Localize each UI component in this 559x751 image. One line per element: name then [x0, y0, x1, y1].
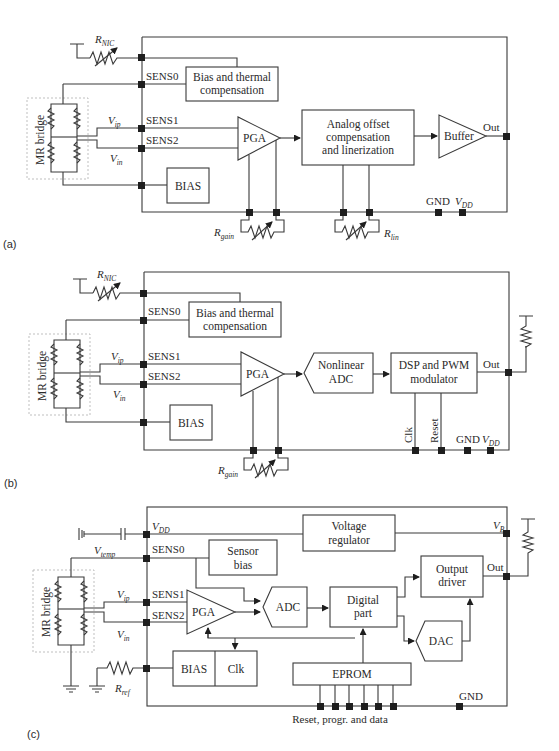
- pin-sens1: SENS1: [146, 114, 178, 126]
- analog-offset-label-3: and linerization: [322, 144, 394, 156]
- pin-sens2-b: SENS2: [148, 370, 180, 382]
- mr-bridge-label: MR bridge: [34, 115, 47, 165]
- rgain-label-b: Rgain: [217, 464, 238, 479]
- pin-sens0-c: SENS0: [152, 543, 185, 555]
- eprom-label: EPROM: [332, 668, 372, 680]
- pin-clk: Clk: [402, 427, 414, 443]
- dac-label: DAC: [429, 635, 454, 647]
- rnic-resistor-icon: [90, 52, 142, 64]
- panel-b: RNIC SENS0 Bias and thermal compensation…: [4, 268, 533, 489]
- output-driver-label: Output: [436, 563, 469, 576]
- bias-label: BIAS: [175, 180, 201, 192]
- prog-pins-label: Reset, progr. and data: [292, 713, 388, 725]
- vin-label: Vin: [110, 152, 123, 167]
- pga-label-b: PGA: [246, 368, 270, 380]
- caption-a: (a): [3, 238, 16, 250]
- vin-label-b: Vin: [113, 388, 126, 403]
- bias-thermal-label-b-2: compensation: [203, 320, 267, 333]
- rnic-supply: [70, 44, 90, 58]
- voltage-regulator-label: Voltage: [332, 520, 367, 533]
- pin-sens0-b: SENS0: [148, 305, 181, 317]
- pin-gnd: GND: [426, 195, 450, 207]
- buffer-label: Buffer: [444, 130, 474, 142]
- adc-label: ADC: [276, 601, 301, 613]
- pga-label-c: PGA: [192, 606, 216, 618]
- vtemp-label: Vtemp: [94, 544, 116, 559]
- mr-bridge-label-c: MR bridge: [40, 587, 53, 637]
- caption-b: (b): [4, 477, 17, 489]
- pin-vdd-c: VDD: [152, 520, 170, 535]
- sensor-bias-label: Sensor: [227, 545, 258, 557]
- panel-c: VDD Vtemp Voltage regulator VB SENS0 Sen…: [27, 507, 535, 740]
- nonlinear-adc-label: Nonlinear: [318, 359, 364, 371]
- pin-out: Out: [483, 121, 500, 133]
- sensor-block-diagrams: RNIC SENS0 Bias and thermal compensation…: [0, 0, 559, 751]
- mr-bridge-resistors-icon-c: [55, 558, 87, 692]
- bias-label-b: BIAS: [178, 417, 204, 429]
- pin-vb: VB: [493, 519, 505, 534]
- output-driver-label-2: driver: [438, 576, 466, 588]
- bias-thermal-label-b: Bias and thermal: [196, 307, 274, 319]
- rnic-label: RNIC: [94, 33, 115, 48]
- ground-icon: [79, 528, 84, 540]
- pin-sens2: SENS2: [146, 134, 178, 146]
- caption-c: (c): [27, 728, 40, 740]
- eprom-pins: [320, 685, 393, 706]
- pin-vdd: VDD: [455, 195, 473, 210]
- vtemp-capacitor-icon: [84, 528, 303, 540]
- panel-a: RNIC SENS0 Bias and thermal compensation…: [3, 33, 510, 250]
- vin-label-c: Vin: [117, 628, 130, 643]
- dsp-pwm-label-2: modulator: [410, 373, 457, 385]
- pullup-resistor-icon-c: [521, 519, 535, 562]
- pin-sens1-c: SENS1: [152, 588, 184, 600]
- pin-gnd-b: GND: [456, 433, 480, 445]
- rnic-label-b: RNIC: [96, 268, 117, 283]
- dsp-pwm-label: DSP and PWM: [399, 359, 470, 371]
- dac-to-driver-arrow: [462, 599, 470, 641]
- pin-sens0: SENS0: [146, 70, 179, 82]
- rnic-supply-b: [73, 279, 93, 293]
- gain-control-bus: [208, 628, 355, 638]
- digital-part-label: Digital: [347, 594, 379, 607]
- vip-label-c: Vip: [117, 588, 130, 603]
- mr-bridge-label-b: MR bridge: [36, 351, 49, 401]
- rlin-wires: [343, 165, 369, 212]
- vip-label-b: Vip: [111, 350, 124, 365]
- pin-sens1-b: SENS1: [148, 350, 180, 362]
- rref-resistor-icon: [97, 662, 147, 674]
- nonlinear-adc-label-2: ADC: [329, 373, 354, 385]
- vip-label: Vip: [108, 114, 121, 129]
- rnic-to-bias-wire-b: [144, 293, 240, 302]
- bias-label-c: BIAS: [181, 663, 207, 675]
- voltage-regulator-label-2: regulator: [328, 534, 370, 547]
- rnic-to-bias-wire: [142, 58, 237, 67]
- pga-label: PGA: [243, 132, 267, 144]
- pin-out-c: Out: [487, 561, 504, 573]
- rnic-resistor-icon-b: [93, 287, 144, 299]
- mr-bridge-resistors-icon-b: [51, 320, 144, 422]
- digital-part-label-2: part: [354, 607, 373, 620]
- rref-label: Rref: [114, 682, 131, 697]
- pin-vdd-b: VDD: [482, 433, 500, 448]
- sensor-bias-label-2: bias: [234, 559, 253, 571]
- digital-to-driver-arrow: [397, 577, 419, 597]
- pin-sens2-c: SENS2: [152, 609, 184, 621]
- analog-offset-label-2: compensation: [326, 131, 390, 144]
- pullup-resistor-icon-b: [519, 316, 533, 347]
- analog-offset-label: Analog offset: [327, 118, 391, 131]
- digital-to-dac-arrow: [397, 616, 414, 641]
- pin-reset: Reset: [428, 419, 440, 443]
- bias-thermal-label: Bias and thermal: [193, 71, 271, 83]
- rlin-label: Rlin: [383, 227, 399, 242]
- pin-gnd-c: GND: [459, 690, 483, 702]
- mr-bridge-resistors-icon: [48, 84, 142, 185]
- bias-thermal-label-2: compensation: [200, 84, 264, 97]
- rgain-label: Rgain: [213, 226, 234, 241]
- vip-wire-c: [84, 602, 187, 608]
- rref-ground-icon: [89, 668, 105, 692]
- clk-label-c: Clk: [228, 663, 245, 675]
- pin-out-b: Out: [483, 358, 500, 370]
